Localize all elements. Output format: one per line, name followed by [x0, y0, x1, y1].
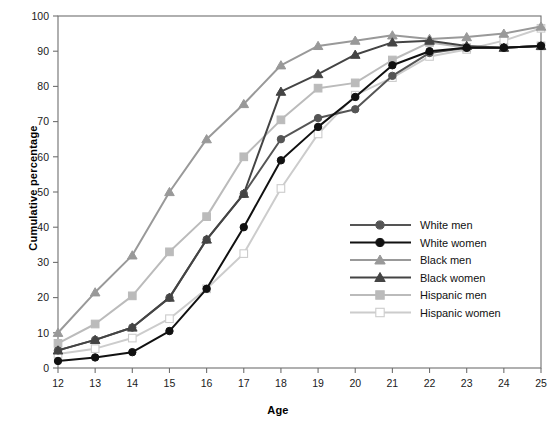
x-tick-label: 14 — [126, 377, 138, 389]
y-tick-label: 70 — [37, 115, 49, 127]
y-tick-label: 50 — [37, 186, 49, 198]
x-tick-label: 22 — [424, 377, 436, 389]
y-tick-label: 20 — [37, 291, 49, 303]
x-tick-label: 19 — [312, 377, 324, 389]
x-tick-label: 20 — [349, 377, 361, 389]
x-tick-label: 12 — [52, 377, 64, 389]
chart-legend: White menWhite womenBlack menBlack women… — [344, 212, 530, 325]
x-tick-label: 21 — [387, 377, 399, 389]
y-tick-label: 100 — [31, 10, 49, 22]
cumulative-percentage-line-chart: 0102030405060708090100 12131415161718192… — [0, 0, 556, 425]
y-tick-label: 40 — [37, 221, 49, 233]
y-axis-title: Cumulative percentage — [27, 93, 39, 283]
legend-item-label: Hispanic men — [420, 289, 487, 301]
y-tick-label: 10 — [37, 327, 49, 339]
y-tick-label: 30 — [37, 256, 49, 268]
legend-item-label: White women — [420, 237, 487, 249]
x-tick-label: 24 — [498, 377, 510, 389]
y-tick-label: 60 — [37, 151, 49, 163]
y-tick-label: 80 — [37, 80, 49, 92]
x-tick-label: 18 — [275, 377, 287, 389]
legend-item-label: White men — [420, 219, 473, 231]
y-tick-label: 90 — [37, 45, 49, 57]
x-tick-label: 17 — [238, 377, 250, 389]
x-tick-label: 16 — [201, 377, 213, 389]
x-axis-ticks: 1213141516171819202122232425 — [52, 368, 547, 389]
legend-item-label: Hispanic women — [420, 307, 501, 319]
y-tick-label: 0 — [43, 362, 49, 374]
legend-item-label: Black men — [420, 254, 471, 266]
x-tick-label: 23 — [461, 377, 473, 389]
x-tick-label: 13 — [89, 377, 101, 389]
x-axis-title: Age — [0, 404, 556, 416]
chart-canvas: 0102030405060708090100 12131415161718192… — [0, 0, 556, 425]
legend-item-label: Black women — [420, 272, 485, 284]
x-tick-label: 25 — [535, 377, 547, 389]
x-tick-label: 15 — [164, 377, 176, 389]
